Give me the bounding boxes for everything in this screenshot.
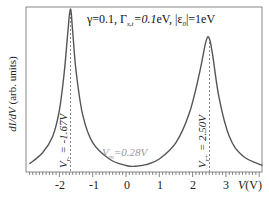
vm-var: V — [102, 146, 109, 158]
vr-plus-val: = 2.50V — [196, 115, 208, 154]
vr-minus-annotation: Vr- = -1.67V — [57, 114, 72, 168]
x-tick-label: 1 — [150, 178, 170, 193]
param-ev: eV, |ε — [157, 12, 183, 26]
vr-minus-val: = -1.67V — [57, 114, 69, 157]
param-gamma: γ=0.1, Γ — [87, 12, 127, 26]
parameter-annotation: γ=0.1, Γs,t=0.1eV, |ε0|=1eV — [87, 12, 215, 28]
x-tick-label: 2 — [183, 178, 203, 193]
y-axis-label-var: dI/dV — [6, 107, 18, 131]
vr-plus-sub: r+ — [203, 154, 211, 161]
y-axis-label: dI/dV (arb. units) — [6, 44, 18, 144]
vr-plus-annotation: Vr+ = 2.50V — [196, 115, 211, 168]
x-axis-unit: (V) — [245, 178, 262, 192]
vr-minus-sub: r- — [64, 156, 72, 161]
x-tick-label: 0 — [117, 178, 137, 193]
param-gamma-val: =0.1 — [133, 12, 156, 26]
vm-val: =0.28V — [114, 146, 147, 158]
x-axis-label: V(V) — [238, 178, 262, 193]
y-axis-label-unit: (arb. units) — [6, 56, 18, 107]
vr-plus-var: V — [196, 161, 208, 168]
x-tick-label: -1 — [84, 178, 104, 193]
plot-area — [0, 0, 269, 199]
x-axis-ticks — [29, 172, 259, 177]
param-eps-val: |=1eV — [186, 12, 215, 26]
vr-minus-var: V — [57, 161, 69, 168]
x-tick-label: -2 — [50, 178, 70, 193]
vm-annotation: Vm=0.28V — [102, 146, 147, 161]
x-tick-label: 3 — [216, 178, 236, 193]
